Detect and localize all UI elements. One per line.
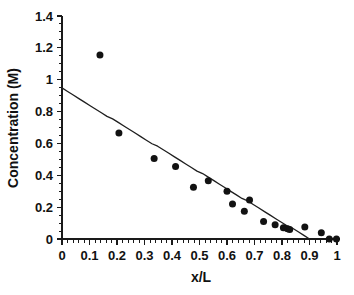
y-tick-label: 0 xyxy=(46,232,53,247)
x-tick-label: 0.8 xyxy=(273,248,291,263)
data-point xyxy=(224,188,231,195)
y-tick-label: 0.4 xyxy=(35,168,54,183)
data-point xyxy=(96,52,103,59)
x-tick-label: 0.5 xyxy=(190,248,208,263)
x-tick-label: 0.4 xyxy=(163,248,182,263)
y-tick-label: 0.6 xyxy=(35,136,53,151)
x-tick-label: 0.9 xyxy=(300,248,318,263)
data-point xyxy=(272,221,279,228)
data-point xyxy=(190,184,197,191)
data-point xyxy=(318,229,325,236)
data-point xyxy=(115,130,122,137)
data-point xyxy=(172,163,179,170)
y-axis-title: Concentration (M) xyxy=(5,68,21,188)
x-tick-label: 0.1 xyxy=(80,248,98,263)
data-point xyxy=(333,236,340,243)
data-point xyxy=(260,218,267,225)
data-point xyxy=(301,224,308,231)
chart-figure: 00.20.40.60.811.21.4 Concentration (M) 0… xyxy=(0,0,354,295)
data-point xyxy=(205,177,212,184)
x-tick-label: 1 xyxy=(333,248,340,263)
y-tick-label: 0.2 xyxy=(35,200,53,215)
data-point xyxy=(229,200,236,207)
x-axis-title: x/L xyxy=(191,269,212,285)
y-tick-label: 1.2 xyxy=(35,40,53,55)
data-point xyxy=(151,155,158,162)
concentration-vs-position-chart: 00.20.40.60.811.21.4 Concentration (M) 0… xyxy=(0,0,354,295)
x-tick-label: 0.7 xyxy=(245,248,263,263)
x-tick-label: 0.3 xyxy=(135,248,153,263)
x-tick-label: 0.2 xyxy=(108,248,126,263)
x-tick-label: 0 xyxy=(58,248,65,263)
data-point xyxy=(241,208,248,215)
data-point xyxy=(246,196,253,203)
y-tick-label: 1 xyxy=(46,72,53,87)
data-point xyxy=(326,236,333,243)
y-tick-label: 0.8 xyxy=(35,104,53,119)
y-tick-label: 1.4 xyxy=(35,9,54,24)
data-point xyxy=(286,226,293,233)
x-tick-label: 0.6 xyxy=(218,248,236,263)
